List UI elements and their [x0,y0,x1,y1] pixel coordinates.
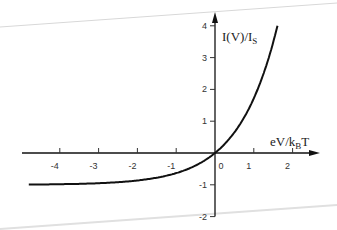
x-axis-arrow-icon [309,150,320,156]
x-tick-label: -4 [51,161,59,171]
y-axis-title: I(V)/IS [222,29,257,46]
x-tick-label: 2 [285,161,290,171]
x-tick-label: -3 [90,161,98,171]
ticks: -4-3-2-1012-2-11234 [51,21,293,222]
axes [22,12,320,217]
page-edge-bottom [0,205,337,229]
page-edge-top [0,3,337,27]
x-tick-label: -2 [128,161,136,171]
x-tick-label: -1 [167,161,175,171]
x-axis-title: eV/kBT [270,134,309,151]
iv-curve [29,26,278,185]
y-tick-label: -2 [199,212,207,222]
y-tick-label: 4 [202,21,207,31]
y-tick-label: 2 [202,84,207,94]
y-axis-arrow-icon [212,12,218,23]
x-tick-label: 1 [246,161,251,171]
y-tick-label: 3 [202,53,207,63]
y-tick-label: 1 [202,116,207,126]
x-tick-label: 0 [218,161,223,171]
chart-canvas: -4-3-2-1012-2-11234 I(V)/IS eV/kBT [0,0,337,230]
y-tick-label: -1 [199,180,207,190]
